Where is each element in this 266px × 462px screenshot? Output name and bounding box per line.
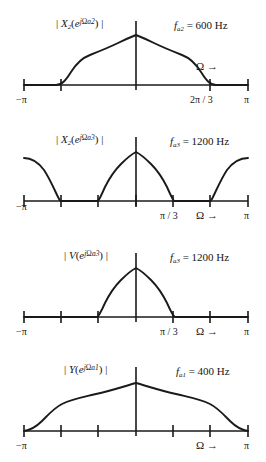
panel-1: | X2(ejΩa2) | fa2 = 600 Hz Ω → −π 2π / 3… <box>0 0 266 116</box>
tick-label-pi-3: π / 3 <box>160 327 178 337</box>
frequency-annotation: fa1 = 400 Hz <box>176 366 230 378</box>
frequency-annotation: fa3 = 1200 Hz <box>170 136 229 148</box>
frequency-annotation: fa2 = 600 Hz <box>174 20 228 32</box>
tick-label-neg-pi: −π <box>16 441 27 451</box>
panel-2: | X2(ejΩa3) | fa3 = 1200 Hz Ω → −π π / 3… <box>0 116 266 232</box>
tick-label-pi: π <box>244 441 249 451</box>
magnitude-label: | X2(ejΩa2) | <box>56 18 103 30</box>
panel-1-plot <box>0 0 266 116</box>
tick-label-neg-pi: −π <box>16 327 27 337</box>
tick-label-pi: π <box>244 95 249 105</box>
panel-3-plot <box>0 232 266 346</box>
tick-label-neg-pi: −π <box>16 95 27 105</box>
spectra-figure: | X2(ejΩa2) | fa2 = 600 Hz Ω → −π 2π / 3… <box>0 0 266 462</box>
tick-label-pi-3: π / 3 <box>160 211 178 221</box>
tick-label-pi: π <box>244 327 249 337</box>
panel-3: | V(ejΩa3) | fa3 = 1200 Hz Ω → −π π / 3 … <box>0 232 266 346</box>
magnitude-label: | V(ejΩa3) | <box>64 250 108 261</box>
omega-axis-arrow: Ω → <box>196 440 218 451</box>
omega-axis-arrow: Ω → <box>196 326 218 337</box>
spectrum-replica-left <box>24 158 61 201</box>
omega-axis-arrow: Ω → <box>196 61 218 72</box>
frequency-annotation: fa3 = 1200 Hz <box>170 252 229 264</box>
panel-4: | Y(ejΩa1) | fa1 = 400 Hz Ω → −π π <box>0 346 266 462</box>
panel-4-plot <box>0 346 266 462</box>
spectrum-replica-right <box>210 158 248 201</box>
tick-label-pi: π <box>244 211 249 221</box>
magnitude-label: | Y(ejΩa1) | <box>64 364 107 375</box>
omega-axis-arrow: Ω → <box>196 210 218 221</box>
panel-2-plot <box>0 116 266 232</box>
magnitude-label: | X2(ejΩa3) | <box>56 134 103 146</box>
tick-label-neg-pi: −π <box>16 202 27 212</box>
tick-label-2pi-3: 2π / 3 <box>190 95 213 105</box>
